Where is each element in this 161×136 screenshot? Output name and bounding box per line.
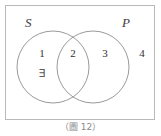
venn-diagram-figure: S P 1 2 3 4 ∃ （圖 12） [0,0,161,136]
predicate-set-circle [57,31,129,103]
predicate-set-label: P [122,16,130,29]
exists-quantifier-symbol: ∃ [35,68,49,79]
subject-set-circle [17,31,89,103]
subject-set-label: S [25,16,32,29]
region-label-1: 1 [36,48,48,59]
region-label-4: 4 [136,48,148,59]
figure-caption: （圖 12） [0,123,161,133]
region-label-3: 3 [99,48,111,59]
region-label-2: 2 [67,48,79,59]
